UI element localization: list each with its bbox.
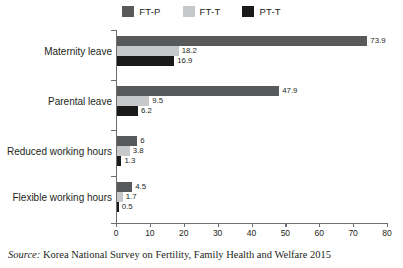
bar-ft-p[interactable]	[117, 136, 137, 146]
x-axis-tick-label: 60	[315, 228, 324, 238]
bar-value-label: 1.7	[126, 193, 137, 201]
source-text: Korea National Survey on Fertility, Fami…	[40, 249, 331, 260]
bar-row[interactable]: 0.5	[117, 202, 146, 212]
x-axis-tick-label: 40	[247, 228, 256, 238]
x-axis-tick-mark	[184, 223, 185, 227]
bar-row[interactable]: 47.9	[117, 86, 297, 96]
legend-item-pt-t[interactable]: PT-T	[242, 6, 280, 17]
x-axis-tick-mark	[285, 223, 286, 227]
category-label: Parental leave	[48, 96, 112, 107]
bar-ft-t[interactable]	[117, 46, 179, 56]
bar-value-label: 16.9	[177, 57, 192, 65]
x-axis-ticks: 01020304050607080	[0, 223, 403, 239]
x-axis-tick-mark	[353, 223, 354, 227]
chart-legend: FT-PFT-TPT-T	[0, 6, 403, 17]
category-label: Maternity leave	[44, 46, 112, 57]
source-caption: Source: Korea National Survey on Fertili…	[8, 249, 331, 260]
x-axis-tick-mark	[387, 223, 388, 227]
bar-stack: 63.81.3	[117, 136, 145, 166]
category-group: Reduced working hours63.81.3	[0, 136, 403, 166]
y-axis-tick	[111, 30, 116, 31]
legend-label: PT-T	[259, 6, 280, 17]
y-axis-tick	[111, 176, 116, 177]
bar-value-label: 4.5	[135, 183, 146, 191]
chart-figure: FT-PFT-TPT-T Maternity leave73.918.216.9…	[0, 0, 403, 268]
legend-item-ft-p[interactable]: FT-P	[122, 6, 160, 17]
x-axis-tick-label: 80	[382, 228, 391, 238]
bar-row[interactable]: 18.2	[117, 46, 386, 56]
x-axis-tick-mark	[319, 223, 320, 227]
bar-row[interactable]: 16.9	[117, 56, 386, 66]
bar-row[interactable]: 1.7	[117, 192, 146, 202]
plot-area: Maternity leave73.918.216.9Parental leav…	[0, 30, 403, 230]
legend-item-ft-t[interactable]: FT-T	[183, 6, 221, 17]
y-axis-tick	[111, 80, 116, 81]
bar-ft-t[interactable]	[117, 192, 123, 202]
bar-row[interactable]: 73.9	[117, 36, 386, 46]
legend-swatch-icon	[122, 6, 134, 17]
bar-value-label: 47.9	[282, 87, 297, 95]
x-axis-tick-label: 10	[145, 228, 154, 238]
bar-value-label: 9.5	[152, 97, 163, 105]
category-group: Parental leave47.99.56.2	[0, 86, 403, 116]
bar-pt-t[interactable]	[117, 56, 174, 66]
bar-value-label: 0.5	[122, 203, 133, 211]
bar-stack: 47.99.56.2	[117, 86, 297, 116]
bar-ft-t[interactable]	[117, 146, 130, 156]
source-prefix: Source:	[8, 249, 40, 260]
bar-row[interactable]: 3.8	[117, 146, 145, 156]
legend-swatch-icon	[242, 6, 254, 17]
x-axis-tick-mark	[150, 223, 151, 227]
category-group: Maternity leave73.918.216.9	[0, 36, 403, 66]
x-axis-tick-mark	[218, 223, 219, 227]
bar-ft-p[interactable]	[117, 86, 279, 96]
bar-stack: 73.918.216.9	[117, 36, 386, 66]
category-label: Reduced working hours	[7, 146, 112, 157]
bar-row[interactable]: 6.2	[117, 106, 297, 116]
bar-pt-t[interactable]	[117, 202, 119, 212]
bar-ft-p[interactable]	[117, 36, 367, 46]
bar-value-label: 3.8	[133, 147, 144, 155]
bar-value-label: 1.3	[124, 157, 135, 165]
bar-value-label: 73.9	[370, 37, 385, 45]
bar-row[interactable]: 9.5	[117, 96, 297, 106]
bar-stack: 4.51.70.5	[117, 182, 146, 212]
legend-swatch-icon	[183, 6, 195, 17]
legend-label: FT-T	[200, 6, 221, 17]
bar-pt-t[interactable]	[117, 106, 138, 116]
category-label: Flexible working hours	[13, 192, 113, 203]
bar-value-label: 18.2	[182, 47, 197, 55]
bar-ft-p[interactable]	[117, 182, 132, 192]
x-axis-tick-label: 20	[179, 228, 188, 238]
bar-pt-t[interactable]	[117, 156, 121, 166]
bar-row[interactable]: 1.3	[117, 156, 145, 166]
bar-value-label: 6.2	[141, 107, 152, 115]
y-axis-tick	[111, 130, 116, 131]
x-axis-tick-mark	[252, 223, 253, 227]
legend-label: FT-P	[139, 6, 160, 17]
x-axis-tick-label: 0	[114, 228, 119, 238]
x-axis-tick-mark	[116, 223, 117, 227]
x-axis-tick-label: 70	[348, 228, 357, 238]
bar-row[interactable]: 4.5	[117, 182, 146, 192]
category-group: Flexible working hours4.51.70.5	[0, 182, 403, 212]
x-axis-tick-label: 50	[281, 228, 290, 238]
bar-row[interactable]: 6	[117, 136, 145, 146]
x-axis-tick-label: 30	[213, 228, 222, 238]
bar-ft-t[interactable]	[117, 96, 149, 106]
bar-value-label: 6	[140, 137, 144, 145]
